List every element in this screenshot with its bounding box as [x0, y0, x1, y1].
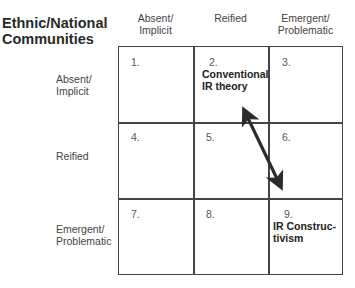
double-arrow-icon — [0, 0, 355, 288]
